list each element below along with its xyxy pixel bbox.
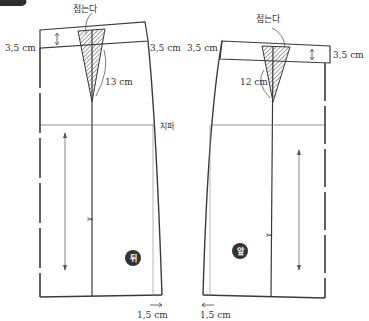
- back-panel: ✂ 뒤 접는다 3,5 cm 3,5 cm 13 cm 지퍼 1,5 cm: [5, 3, 181, 320]
- front-side-seam: [203, 41, 222, 295]
- corner-tab: [0, 0, 27, 6]
- back-hem-label: 1,5 cm: [137, 310, 168, 320]
- zipper-label: 지퍼: [160, 122, 174, 131]
- back-waist-right-label: 3,5 cm: [150, 43, 181, 53]
- front-dart-length-label: 12 cm: [240, 77, 268, 87]
- back-side-seam: [148, 41, 162, 295]
- front-hem-label: 1,5 cm: [200, 310, 231, 320]
- scissors-icon: ✂: [266, 231, 273, 240]
- back-dart-length-label: 13 cm: [105, 77, 133, 87]
- front-waist-right-label: 3,5 cm: [333, 50, 364, 60]
- front-badge-label: 앞: [237, 246, 245, 256]
- back-badge-label: 뒤: [130, 253, 137, 263]
- back-fold-label: 접는다: [73, 3, 98, 14]
- front-panel: ✂ 앞 접는다 3,5 cm 3,5 cm 12 cm 1,5 cm: [187, 13, 364, 320]
- front-fold-label: 접는다: [256, 13, 281, 24]
- back-waist-left-label: 3,5 cm: [5, 43, 36, 53]
- skirt-pattern-diagram: ✂ 뒤 접는다 3,5 cm 3,5 cm 13 cm 지퍼 1,5 cm: [0, 0, 369, 321]
- back-hem: [40, 295, 162, 297]
- front-waist-left-label: 3,5 cm: [187, 43, 218, 53]
- scissors-icon: ✂: [87, 215, 94, 224]
- front-hem: [203, 295, 325, 298]
